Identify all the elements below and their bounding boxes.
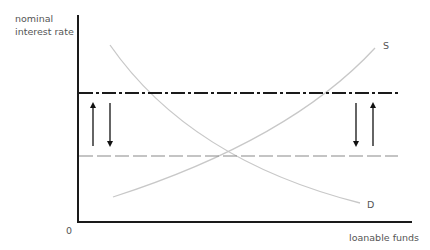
diagram-canvas — [0, 0, 430, 250]
demand-curve — [110, 45, 360, 203]
supply-curve — [113, 48, 375, 197]
